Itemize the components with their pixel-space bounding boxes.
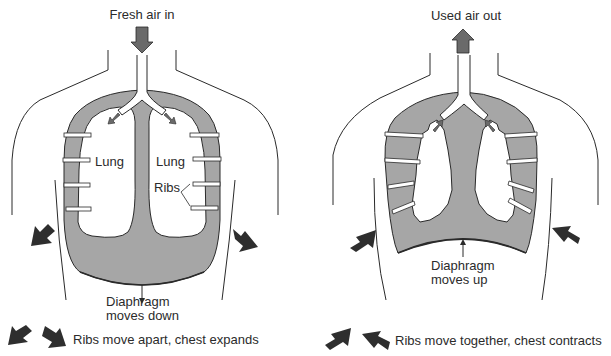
exhale-caption: Ribs move together, chest contracts — [395, 333, 602, 348]
caption-arrow-outward-left-icon — [8, 325, 32, 345]
diaphragm-movement-label: moves up — [431, 272, 487, 287]
waist-line-right — [222, 180, 235, 300]
waist-line-left — [374, 178, 386, 300]
caption-arrow-inward-right-icon — [362, 331, 390, 350]
waist-line-right — [542, 178, 552, 300]
caption-arrow-inward-left-icon — [325, 328, 351, 350]
lung-left-label: Lung — [95, 154, 124, 169]
breathing-diagram — [0, 0, 611, 356]
rib-arrow-left-icon — [350, 230, 376, 252]
rib-arrow-right-icon — [552, 226, 580, 244]
exhale-panel — [325, 29, 598, 350]
lung-right-label: Lung — [156, 154, 185, 169]
diaphragm-label: Diaphragm — [431, 258, 495, 273]
air-in-arrow-icon — [131, 27, 153, 53]
inhale-caption: Ribs move apart, chest expands — [73, 332, 259, 347]
diaphragm-label: Diaphragm — [106, 294, 170, 309]
air-out-label: Used air out — [421, 8, 511, 23]
rib-arrow-right-icon — [233, 229, 258, 252]
chest-cavity — [385, 92, 537, 253]
lung-right — [149, 107, 206, 237]
diaphragm-movement-label: moves down — [106, 308, 179, 323]
rib-arrow-left-icon — [31, 224, 55, 246]
caption-arrow-outward-right-icon — [42, 326, 66, 348]
air-out-arrow-icon — [452, 29, 474, 53]
lung-left — [78, 107, 135, 237]
air-in-label: Fresh air in — [102, 7, 182, 22]
ribs-label: Ribs — [154, 180, 180, 195]
